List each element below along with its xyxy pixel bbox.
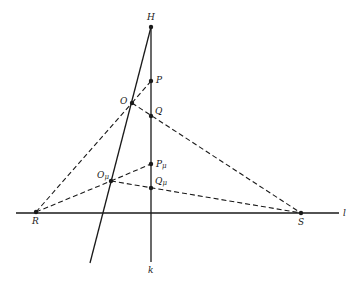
point-r: [34, 210, 38, 214]
label-o: O: [120, 96, 128, 106]
label-omu: Oμ: [97, 170, 109, 181]
point-p: [149, 79, 153, 83]
label-h: H: [146, 12, 155, 22]
point-qmu: [149, 186, 153, 190]
label-line-k: k: [148, 265, 153, 275]
point-s: [299, 211, 303, 215]
geometry-diagram: HPOQPμOμQμRSlk: [0, 0, 356, 287]
seg-omu-pmu: [111, 164, 151, 181]
label-p: P: [155, 75, 163, 85]
seg-o-s: [132, 103, 301, 213]
label-qmu: Qμ: [155, 176, 167, 187]
point-omu: [109, 179, 113, 183]
points: [34, 25, 303, 215]
label-pmu: Pμ: [155, 159, 167, 170]
point-o: [130, 101, 134, 105]
label-r: R: [31, 216, 39, 226]
seg-r-omu: [36, 181, 111, 212]
point-h: [149, 25, 153, 29]
seg-omu-s: [111, 181, 301, 213]
labels: HPOQPμOμQμRSlk: [31, 12, 346, 275]
point-q: [149, 114, 153, 118]
label-line-l: l: [343, 208, 346, 218]
label-s: S: [298, 217, 304, 227]
point-pmu: [149, 162, 153, 166]
line-ho: [90, 27, 151, 263]
solid-lines: [16, 27, 339, 263]
dashed-lines: [36, 81, 301, 213]
label-q: Q: [155, 106, 163, 116]
